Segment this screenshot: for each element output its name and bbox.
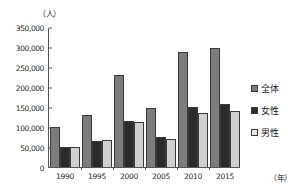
- bar-group: [81, 28, 113, 167]
- bar-女性-1990: [60, 147, 70, 167]
- bar-女性-2010: [188, 107, 198, 167]
- x-axis-tick-mark: [209, 167, 210, 170]
- legend-item-label: 女性: [261, 104, 278, 117]
- legend-swatch-total-icon: [251, 85, 258, 92]
- legend-swatch-male-icon: [251, 129, 258, 136]
- bar-groups: [49, 28, 240, 167]
- x-axis-tick-label: 2010: [184, 172, 202, 181]
- bar-group: [113, 28, 145, 167]
- bar-女性-1995: [92, 141, 102, 167]
- y-axis-tick-label: 250,000: [16, 64, 49, 73]
- x-axis-unit-label: （年）: [269, 172, 292, 183]
- y-axis-tick-label: 200,000: [16, 84, 49, 93]
- bar-女性-2000: [124, 121, 134, 167]
- bar-男性-1990: [70, 147, 80, 167]
- bar-男性-2010: [198, 113, 208, 167]
- x-axis-tick-mark: [81, 167, 82, 170]
- bar-全体-2010: [178, 52, 188, 167]
- bar-group: [145, 28, 177, 167]
- bar-男性-2015: [230, 111, 240, 167]
- legend-item-label: 男性: [261, 126, 278, 139]
- y-axis-unit-label: （人）: [38, 8, 61, 19]
- legend-item-label: 全体: [261, 82, 278, 95]
- bar-全体-1990: [50, 127, 60, 167]
- chart-legend: 全体女性男性: [251, 82, 278, 139]
- y-axis-tick-label: 100,000: [16, 124, 49, 133]
- x-axis-tick-mark: [145, 167, 146, 170]
- legend-item-全体[interactable]: 全体: [251, 82, 278, 95]
- x-axis-tick-mark: [113, 167, 114, 170]
- bar-男性-2005: [166, 139, 176, 167]
- bar-chart: （人） 050,000100,000150,000200,000250,0003…: [0, 0, 307, 194]
- x-axis-tick-label: 1990: [56, 172, 74, 181]
- legend-item-男性[interactable]: 男性: [251, 126, 278, 139]
- x-axis-tick-label: 2005: [152, 172, 170, 181]
- bar-group: [177, 28, 209, 167]
- plot-area: 050,000100,000150,000200,000250,000300,0…: [48, 28, 240, 168]
- x-axis-tick-mark: [177, 167, 178, 170]
- legend-swatch-female-icon: [251, 107, 258, 114]
- legend-item-女性[interactable]: 女性: [251, 104, 278, 117]
- y-axis-tick-label: 150,000: [16, 104, 49, 113]
- bar-女性-2015: [220, 104, 230, 167]
- y-axis-tick-label: 350,000: [16, 24, 49, 33]
- bar-全体-1995: [82, 115, 92, 167]
- y-axis-tick-label: 300,000: [16, 44, 49, 53]
- bar-group: [49, 28, 81, 167]
- bar-group: [209, 28, 241, 167]
- bar-女性-2005: [156, 137, 166, 167]
- bar-男性-1995: [102, 140, 112, 167]
- x-axis-tick-label: 2015: [216, 172, 234, 181]
- bar-男性-2000: [134, 122, 144, 167]
- y-axis-tick-label: 0: [40, 164, 49, 173]
- y-axis-tick-label: 50,000: [20, 144, 49, 153]
- x-axis-tick-label: 1995: [88, 172, 106, 181]
- bar-全体-2000: [114, 75, 124, 167]
- x-axis-tick-label: 2000: [120, 172, 138, 181]
- bar-全体-2015: [210, 48, 220, 167]
- bar-全体-2005: [146, 108, 156, 167]
